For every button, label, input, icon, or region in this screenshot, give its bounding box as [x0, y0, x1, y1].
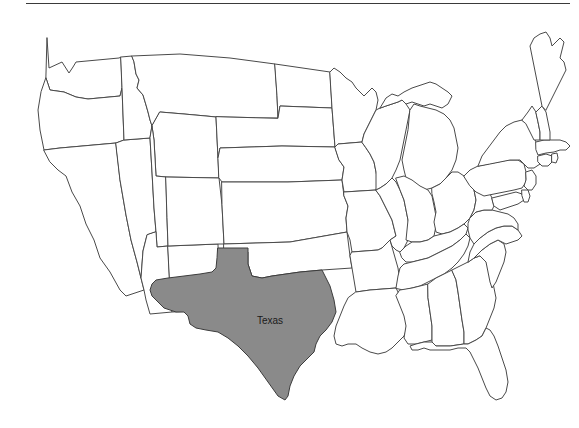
- state-connecticut[interactable]: [538, 154, 552, 166]
- state-kansas[interactable]: [222, 180, 348, 244]
- state-colorado[interactable]: [166, 177, 224, 246]
- state-newjersey[interactable]: [524, 170, 536, 190]
- state-montana[interactable]: [132, 54, 278, 126]
- state-michigan-upper[interactable]: [380, 82, 452, 108]
- state-washington[interactable]: [46, 38, 122, 99]
- state-maine[interactable]: [530, 32, 566, 110]
- state-rhodeisland[interactable]: [552, 153, 558, 163]
- state-nebraska[interactable]: [218, 146, 344, 182]
- state-wyoming[interactable]: [152, 112, 219, 178]
- state-massachusetts[interactable]: [536, 140, 570, 155]
- state-maryland[interactable]: [492, 192, 524, 210]
- map-figure: Texas: [0, 0, 579, 428]
- us-map[interactable]: Texas: [0, 0, 579, 428]
- state-delaware[interactable]: [522, 190, 530, 202]
- state-label-texas: Texas: [257, 315, 283, 326]
